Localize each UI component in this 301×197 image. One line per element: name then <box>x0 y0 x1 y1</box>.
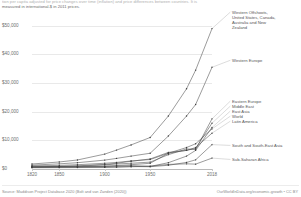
series-point[interactable] <box>186 162 187 163</box>
series-point[interactable] <box>186 88 187 89</box>
x-axis-tick-label: 1950 <box>145 172 155 177</box>
series-point[interactable] <box>104 153 105 154</box>
series-point[interactable] <box>195 143 196 144</box>
series-point[interactable] <box>59 161 60 162</box>
series-point[interactable] <box>186 155 187 156</box>
y-axis-tick-label: $10,000 <box>2 138 19 143</box>
series-point[interactable] <box>77 159 78 160</box>
series-point[interactable] <box>211 122 212 123</box>
series-point[interactable] <box>116 163 117 164</box>
x-axis-tick-mark <box>150 169 151 171</box>
y-axis-tick-label: $40,000 <box>2 52 19 57</box>
series-point[interactable] <box>104 167 105 168</box>
series-point[interactable] <box>130 144 131 145</box>
y-axis-tick-label: $0 <box>2 166 7 171</box>
x-axis-tick-label: 1900 <box>100 172 110 177</box>
series-point[interactable] <box>130 163 131 164</box>
x-axis-tick-mark <box>105 169 106 171</box>
series-label-south-and-south-east-asia[interactable]: South and South-East Asia <box>232 143 282 148</box>
series-point[interactable] <box>168 115 169 116</box>
series-point[interactable] <box>186 163 187 164</box>
series-point[interactable] <box>130 161 131 162</box>
series-point[interactable] <box>211 67 212 68</box>
series-lines <box>32 20 212 169</box>
chart-container: tion per capita adjusted for price chang… <box>0 0 301 197</box>
series-line[interactable] <box>32 119 212 167</box>
series-point[interactable] <box>149 153 150 154</box>
x-axis-tick-mark <box>59 169 60 171</box>
series-label-western-europe[interactable]: Western Europe <box>232 58 262 63</box>
series-point[interactable] <box>59 163 60 164</box>
series-point[interactable] <box>130 166 131 167</box>
series-point[interactable] <box>195 163 196 164</box>
series-line[interactable] <box>32 123 212 167</box>
series-point[interactable] <box>149 163 150 164</box>
series-point[interactable] <box>186 148 187 149</box>
series-label-latin-america[interactable]: Latin America <box>232 119 258 124</box>
series-point[interactable] <box>211 127 212 128</box>
footer-divider <box>2 185 299 186</box>
series-point[interactable] <box>211 157 212 158</box>
series-line[interactable] <box>32 127 212 166</box>
series-point[interactable] <box>186 115 187 116</box>
series-label-sub-saharan-africa[interactable]: Sub-Saharan Africa <box>232 157 269 162</box>
series-point[interactable] <box>77 162 78 163</box>
credit-note[interactable]: OurWorldInData.org/economic-growth • CC … <box>217 189 298 194</box>
series-point[interactable] <box>104 164 105 165</box>
series-point[interactable] <box>168 164 169 165</box>
series-point[interactable] <box>116 149 117 150</box>
series-point[interactable] <box>195 159 196 160</box>
series-point[interactable] <box>195 104 196 105</box>
subtitle-line-2: measured in international-$ in 2011 pric… <box>2 4 80 9</box>
series-point[interactable] <box>186 150 187 151</box>
series-point[interactable] <box>211 132 212 133</box>
x-axis-tick-label: 1850 <box>54 172 64 177</box>
series-line[interactable] <box>32 129 212 166</box>
series-point[interactable] <box>168 154 169 155</box>
series-point[interactable] <box>168 162 169 163</box>
x-axis-tick-mark <box>212 169 213 171</box>
chart-subtitle: tion per capita adjusted for price chang… <box>2 0 252 10</box>
series-point[interactable] <box>149 137 150 138</box>
series-point[interactable] <box>168 152 169 153</box>
x-axis-tick-mark <box>32 169 33 171</box>
series-point[interactable] <box>149 158 150 159</box>
series-point[interactable] <box>186 147 187 148</box>
series-point[interactable] <box>195 147 196 148</box>
plot-area: $0$10,000$20,000$30,000$40,000$50,000 <box>32 20 212 169</box>
series-point[interactable] <box>77 165 78 166</box>
series-point[interactable] <box>149 165 150 166</box>
series-label-western-offshoots-united-states-canada-australia-and-new-zealand[interactable]: Western Offshoots, United States, Canada… <box>232 10 276 30</box>
series-point[interactable] <box>195 150 196 151</box>
series-point[interactable] <box>168 135 169 136</box>
x-axis-tick-label: 1820 <box>27 172 37 177</box>
series-point[interactable] <box>130 155 131 156</box>
series-point[interactable] <box>77 167 78 168</box>
series-point[interactable] <box>195 69 196 70</box>
x-axis-tick-label: 2018 <box>207 172 217 177</box>
subtitle-line-1: tion per capita adjusted for price chang… <box>2 0 252 4</box>
series-point[interactable] <box>116 158 117 159</box>
series-point[interactable] <box>104 159 105 160</box>
series-point[interactable] <box>116 166 117 167</box>
series-line[interactable] <box>32 29 212 164</box>
source-note: Source: Maddison Project Database 2020 (… <box>2 189 127 194</box>
y-axis-tick-label: $50,000 <box>2 23 19 28</box>
series-point[interactable] <box>211 128 212 129</box>
x-axis: 18201850190019502018 <box>32 170 212 180</box>
series-point[interactable] <box>211 118 212 119</box>
y-axis-tick-label: $20,000 <box>2 109 19 114</box>
series-point[interactable] <box>211 144 212 145</box>
series-point[interactable] <box>211 28 212 29</box>
y-axis-tick-label: $30,000 <box>2 80 19 85</box>
